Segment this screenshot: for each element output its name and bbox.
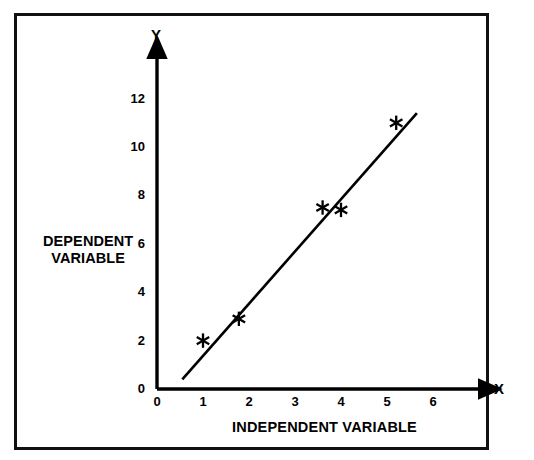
y-tick-label: 8 xyxy=(119,187,145,202)
y-tick-label: 4 xyxy=(119,284,145,299)
x-tick-label: 3 xyxy=(280,394,310,409)
x-tick-label: 1 xyxy=(188,394,218,409)
x-tick-label: 0 xyxy=(142,394,172,409)
x-tick-label: 5 xyxy=(372,394,402,409)
data-point-asterisk xyxy=(390,116,402,130)
y-tick-label: 6 xyxy=(119,236,145,251)
data-point-asterisk xyxy=(316,200,328,214)
y-tick-label: 10 xyxy=(119,139,145,154)
x-axis-title: INDEPENDENT VARIABLE xyxy=(232,419,417,436)
y-tick-label: 12 xyxy=(119,91,145,106)
y-axis-title-line2: VARIABLE xyxy=(51,250,125,266)
y-tick-label: 0 xyxy=(119,381,145,396)
x-axis-name: X xyxy=(494,380,504,398)
x-tick-label: 2 xyxy=(234,394,264,409)
regression-line xyxy=(182,113,417,379)
plot-canvas xyxy=(0,0,534,460)
data-point-markers xyxy=(197,116,403,348)
y-axis-name: Y xyxy=(151,26,161,44)
trend-line xyxy=(182,113,417,379)
x-tick-label: 6 xyxy=(418,394,448,409)
data-point-asterisk xyxy=(197,333,209,347)
x-tick-label: 4 xyxy=(326,394,356,409)
chart-page: Y X DEPENDENTVARIABLE INDEPENDENT VARIAB… xyxy=(0,0,534,460)
y-tick-label: 2 xyxy=(119,333,145,348)
